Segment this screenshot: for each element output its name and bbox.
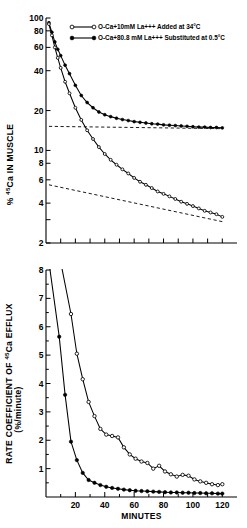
top-panel-datapoint-filled-circle: [144, 122, 147, 125]
top-panel-datapoint-open-circle: [197, 207, 200, 210]
top-panel-datapoint-open-circle: [80, 118, 83, 121]
bottom-panel-datapoint-filled-circle: [187, 491, 190, 494]
top-panel-y-tick-label: 20: [34, 106, 44, 116]
bottom-panel-datapoint-open-circle: [146, 461, 149, 464]
bottom-panel-x-tick-label: 20: [71, 500, 81, 510]
bottom-panel-datapoint-filled-circle: [216, 492, 219, 495]
bottom-panel-y-tick-label: 1: [39, 464, 44, 474]
top-panel-datapoint-filled-circle: [174, 124, 177, 127]
bottom-panel-datapoint-open-circle: [199, 480, 202, 483]
bottom-panel-datapoint-open-circle: [99, 427, 102, 430]
top-panel-datapoint-open-circle: [64, 80, 67, 83]
bottom-panel-datapoint-open-circle: [181, 473, 184, 476]
top-panel-datapoint-filled-circle: [150, 122, 153, 125]
top-panel-y-axis-label: % 45Ca IN MUSCLE: [5, 124, 15, 205]
bottom-panel-y-tick-label: 5: [39, 350, 44, 360]
bottom-panel-datapoint-filled-circle: [58, 335, 61, 338]
bottom-panel-datapoint-filled-circle: [221, 492, 224, 495]
bottom-panel-datapoint-filled-circle: [146, 490, 149, 493]
top-panel-datapoint-filled-circle: [162, 123, 165, 126]
top-panel-datapoint-filled-circle: [68, 72, 71, 75]
bottom-panel-datapoint-open-circle: [93, 414, 96, 417]
top-panel-datapoint-open-circle: [191, 205, 194, 208]
bottom-panel-datapoint-open-circle: [105, 433, 108, 436]
top-panel-datapoint-open-circle: [74, 106, 77, 109]
top-panel-y-tick-label: 4: [39, 198, 44, 208]
top-panel-datapoint-open-circle: [53, 46, 56, 49]
top-panel-y-tick-label: 8: [39, 158, 44, 168]
legend-marker-open-circle: [70, 25, 74, 29]
bottom-panel-x-tick-label: 80: [159, 500, 169, 510]
bottom-panel-datapoint-open-circle: [175, 475, 178, 478]
bottom-panel-y-tick-label: 6: [39, 322, 44, 332]
top-panel-datapoint-filled-circle: [156, 123, 159, 126]
top-panel-datapoint-filled-circle: [139, 121, 142, 124]
bottom-panel-y-tick-label: 7: [39, 293, 44, 303]
top-panel-datapoint-filled-circle: [121, 118, 124, 121]
bottom-panel-datapoint-open-circle: [116, 436, 119, 439]
bottom-panel-y-tick-label: 2: [39, 435, 44, 445]
bottom-panel-y-tick-label: 8: [39, 265, 44, 275]
bottom-panel-datapoint-open-circle: [163, 470, 166, 473]
top-panel-datapoint-open-circle: [186, 202, 189, 205]
bottom-panel-datapoint-filled-circle: [116, 487, 119, 490]
top-panel-datapoint-filled-circle: [86, 101, 89, 104]
bottom-panel-datapoint-open-circle: [122, 446, 125, 449]
bottom-panel-datapoint-filled-circle: [193, 491, 196, 494]
bottom-panel-y-axis-label: RATE COEFFICIENT OF 45Ca EFFLUX: [4, 303, 14, 463]
top-panel-datapoint-filled-circle: [97, 111, 100, 114]
bottom-panel-datapoint-filled-circle: [163, 490, 166, 493]
bottom-panel-datapoint-open-circle: [216, 483, 219, 486]
bottom-panel-y-tick-label: 3: [39, 407, 44, 417]
top-panel-datapoint-filled-circle: [168, 124, 171, 127]
bottom-panel-datapoint-filled-circle: [110, 486, 113, 489]
top-panel-datapoint-open-circle: [121, 168, 124, 171]
legend-label-0: O-Ca+10mM La+++ Added at 34°C: [98, 23, 201, 30]
bottom-panel-x-tick-label: 120: [215, 500, 229, 510]
top-panel-datapoint-open-circle: [209, 211, 212, 214]
top-panel-datapoint-open-circle: [56, 56, 59, 59]
top-panel-datapoint-open-circle: [92, 138, 95, 141]
bottom-panel-datapoint-open-circle: [187, 474, 190, 477]
top-panel-y-tick-label: 100: [29, 13, 43, 23]
bottom-panel-datapoint-filled-circle: [199, 491, 202, 494]
top-panel-datapoint-open-circle: [109, 158, 112, 161]
bottom-panel-x-tick-label: 40: [100, 500, 110, 510]
top-panel-datapoint-open-circle: [139, 180, 142, 183]
bottom-panel-datapoint-open-circle: [69, 312, 72, 315]
bottom-panel-datapoint-open-circle: [169, 473, 172, 476]
top-panel-datapoint-filled-circle: [80, 94, 83, 97]
bottom-panel-datapoint-filled-circle: [204, 492, 207, 495]
top-panel-datapoint-filled-circle: [133, 120, 136, 123]
bottom-panel-datapoint-open-circle: [140, 460, 143, 463]
bottom-panel-x-tick-label: 60: [129, 500, 139, 510]
top-panel-y-tick-label: 2: [39, 238, 44, 248]
top-panel-y-tick-label: 6: [39, 175, 44, 185]
top-panel-datapoint-filled-circle: [56, 48, 59, 51]
top-panel-datapoint-filled-circle: [74, 84, 77, 87]
bottom-panel-datapoint-filled-circle: [81, 471, 84, 474]
bottom-panel-datapoint-open-circle: [128, 453, 131, 456]
top-panel-datapoint-open-circle: [115, 163, 118, 166]
bottom-panel-datapoint-open-circle: [110, 434, 113, 437]
bottom-panel-datapoint-filled-circle: [93, 481, 96, 484]
bottom-panel-datapoint-filled-circle: [181, 491, 184, 494]
bottom-panel-datapoint-open-circle: [157, 464, 160, 467]
bottom-panel-datapoint-filled-circle: [63, 393, 66, 396]
bottom-panel-datapoint-filled-circle: [87, 478, 90, 481]
top-panel-datapoint-open-circle: [180, 200, 183, 203]
bottom-panel-x-tick-label: 100: [186, 500, 200, 510]
top-panel-datapoint-open-circle: [221, 215, 224, 218]
top-panel-datapoint-open-circle: [59, 66, 62, 69]
top-panel-datapoint-open-circle: [156, 190, 159, 193]
top-panel-datapoint-filled-circle: [191, 125, 194, 128]
top-panel-datapoint-open-circle: [203, 209, 206, 212]
bottom-panel-datapoint-filled-circle: [152, 490, 155, 493]
top-panel-datapoint-filled-circle: [221, 126, 224, 129]
top-panel-dashed-asymptote: [49, 185, 222, 222]
bottom-panel-datapoint-filled-circle: [169, 491, 172, 494]
legend-marker-filled-circle: [70, 36, 74, 40]
top-panel-datapoint-open-circle: [150, 187, 153, 190]
bottom-panel-datapoint-filled-circle: [105, 485, 108, 488]
bottom-panel-datapoint-open-circle: [193, 478, 196, 481]
